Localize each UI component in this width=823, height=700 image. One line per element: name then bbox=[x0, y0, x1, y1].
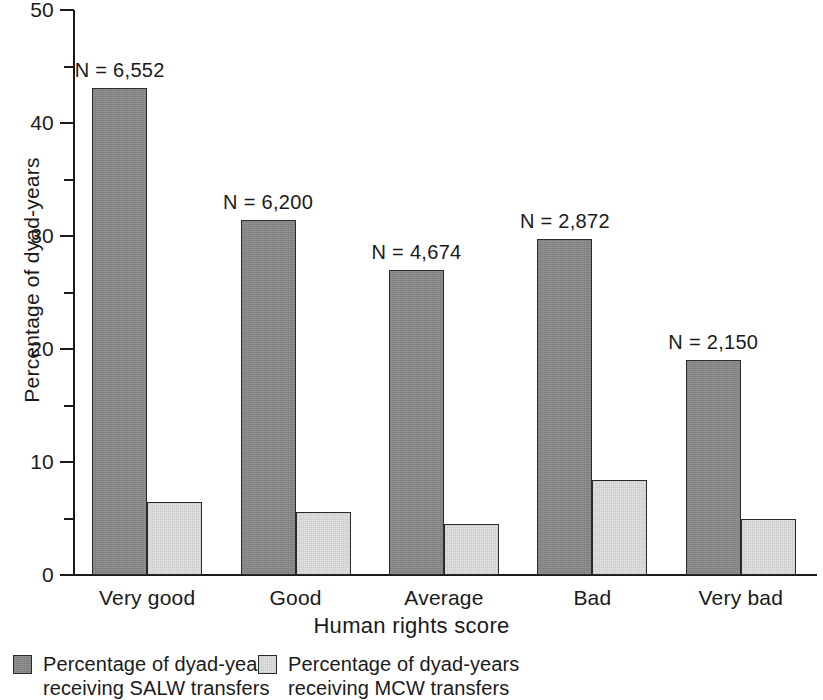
light-gray-swatch-icon bbox=[258, 655, 277, 674]
bar-group: N = 2,872 bbox=[537, 10, 647, 575]
x-tick-label: Average bbox=[370, 586, 518, 610]
x-tick-label: Good bbox=[221, 586, 369, 610]
bar-mcw bbox=[741, 519, 796, 576]
y-tick-label: 0 bbox=[0, 564, 54, 585]
bar-group: N = 4,674 bbox=[389, 10, 499, 575]
chart-legend: Percentage of dyad-years receiving SALW … bbox=[13, 652, 813, 696]
bar-salw bbox=[686, 360, 741, 575]
y-tick-major bbox=[60, 122, 74, 124]
y-tick-label: 50 bbox=[0, 0, 54, 20]
bar-salw bbox=[389, 270, 444, 575]
legend-label-mcw: Percentage of dyad-years receiving MCW t… bbox=[288, 652, 519, 700]
bar-group: N = 6,200 bbox=[241, 10, 351, 575]
x-tick-label: Very good bbox=[73, 586, 221, 610]
bar-salw bbox=[241, 220, 296, 575]
bar-n-label: N = 2,872 bbox=[512, 211, 617, 231]
legend-item-mcw: Percentage of dyad-years receiving MCW t… bbox=[258, 652, 519, 700]
bar-n-label: N = 6,552 bbox=[67, 60, 172, 80]
y-tick-major bbox=[60, 574, 74, 576]
y-tick-major bbox=[60, 9, 74, 11]
bar-group: N = 6,552 bbox=[92, 10, 202, 575]
bar-salw bbox=[92, 88, 147, 575]
bar-n-label: N = 4,674 bbox=[364, 242, 469, 262]
y-tick-major bbox=[60, 348, 74, 350]
bar-mcw bbox=[444, 524, 499, 575]
x-axis-title: Human rights score bbox=[0, 613, 823, 639]
x-tick-label: Bad bbox=[518, 586, 666, 610]
legend-label-salw: Percentage of dyad-years receiving SALW … bbox=[43, 652, 274, 700]
bar-n-label: N = 6,200 bbox=[216, 192, 321, 212]
bar-mcw bbox=[147, 502, 202, 575]
bar-mcw bbox=[592, 480, 647, 575]
y-axis-title: Percentage of dyad-years bbox=[20, 20, 44, 540]
y-tick-major bbox=[60, 461, 74, 463]
y-tick-major bbox=[60, 235, 74, 237]
x-tick-label: Very bad bbox=[667, 586, 815, 610]
bar-n-label: N = 2,150 bbox=[661, 332, 766, 352]
dark-gray-swatch-icon bbox=[13, 655, 32, 674]
bar-group: N = 2,150 bbox=[686, 10, 796, 575]
bar-salw bbox=[537, 239, 592, 575]
legend-item-salw: Percentage of dyad-years receiving SALW … bbox=[13, 652, 274, 700]
plot-area: N = 6,552N = 6,200N = 4,674N = 2,872N = … bbox=[73, 10, 815, 575]
bar-mcw bbox=[296, 512, 351, 575]
